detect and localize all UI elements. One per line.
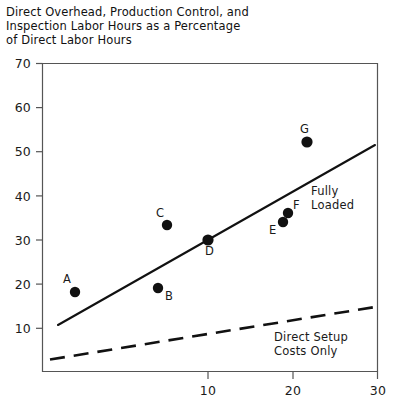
x-axis-ticks <box>208 372 378 380</box>
data-point-e <box>278 217 288 227</box>
x-tick-label-10: 10 <box>193 383 223 398</box>
data-point-label-a: A <box>63 272 71 286</box>
data-point-markers <box>70 136 313 297</box>
data-point-label-c: C <box>156 206 164 220</box>
data-point-label-d: D <box>205 244 214 258</box>
annotation-direct-setup: Direct Setup Costs Only <box>274 330 348 358</box>
data-point-g <box>301 136 312 147</box>
y-tick-label-30: 30 <box>4 233 31 248</box>
chart-container: Direct Overhead, Production Control, and… <box>0 0 399 406</box>
data-point-label-f: F <box>293 198 300 212</box>
y-tick-label-60: 60 <box>4 100 31 115</box>
data-point-label-e: E <box>269 223 276 237</box>
y-tick-label-10: 10 <box>4 321 31 336</box>
x-tick-label-30: 30 <box>363 383 393 398</box>
y-tick-label-40: 40 <box>4 189 31 204</box>
data-point-f <box>283 208 293 218</box>
data-point-label-b: B <box>165 289 173 303</box>
x-tick-label-20: 20 <box>278 383 308 398</box>
y-tick-label-20: 20 <box>4 277 31 292</box>
data-point-c <box>162 220 172 230</box>
data-point-b <box>153 283 163 293</box>
data-point-label-g: G <box>300 122 309 136</box>
y-tick-label-50: 50 <box>4 144 31 159</box>
y-axis-ticks <box>36 64 43 329</box>
data-point-a <box>70 287 80 297</box>
annotation-fully-loaded: Fully Loaded <box>311 184 354 212</box>
series-line-fully-loaded <box>58 145 375 325</box>
y-tick-label-70: 70 <box>4 56 31 71</box>
axis-frame <box>43 63 379 372</box>
